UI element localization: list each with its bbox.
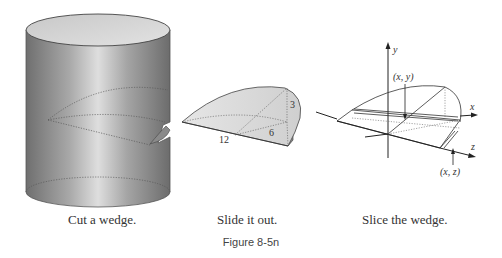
cylinder-panel xyxy=(26,14,170,207)
y-axis-label: y xyxy=(392,44,398,55)
dim-height: 3 xyxy=(290,99,295,110)
figure-label: Figure 8-5n xyxy=(0,236,502,248)
cylinder-body xyxy=(26,30,170,207)
caption-slide-out: Slide it out. xyxy=(217,212,277,228)
point-xz-label: (x, z) xyxy=(440,166,461,178)
wedge-top-face xyxy=(182,87,301,146)
z-axis-back xyxy=(365,134,388,137)
slice-strip-front xyxy=(440,131,455,148)
y-axis-arrow-icon xyxy=(386,42,391,49)
point-xy-label: (x, y) xyxy=(393,71,414,83)
dim-length: 12 xyxy=(219,134,229,145)
caption-cut-wedge: Cut a wedge. xyxy=(68,212,136,228)
slice-wedge-curve xyxy=(352,86,461,122)
x-axis-arrow-icon xyxy=(471,113,478,118)
x-axis-back xyxy=(316,112,337,119)
cylinder-top xyxy=(26,14,170,46)
z-axis xyxy=(440,148,472,156)
wedge-panel: 12 6 3 xyxy=(182,87,301,146)
z-axis-arrow-icon xyxy=(468,153,476,158)
x-axis-label: x xyxy=(469,101,475,112)
z-axis-label: z xyxy=(470,141,475,152)
slice-wedge-diag xyxy=(388,87,445,134)
caption-slice-wedge: Slice the wedge. xyxy=(362,212,448,228)
slice-panel: y x z (x, y) (x, z) xyxy=(316,42,478,178)
dim-radius: 6 xyxy=(269,127,274,138)
